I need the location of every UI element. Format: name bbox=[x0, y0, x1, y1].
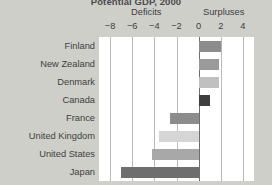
gridline bbox=[221, 37, 222, 181]
gridline bbox=[110, 37, 111, 181]
x-tick-label: 4 bbox=[231, 21, 255, 31]
bar bbox=[199, 59, 219, 70]
x-tick-label: −6 bbox=[120, 21, 144, 31]
gridline bbox=[132, 37, 133, 181]
bar bbox=[152, 149, 199, 160]
x-tick-label: 2 bbox=[209, 21, 233, 31]
category-label: Canada bbox=[0, 95, 95, 105]
category-label: France bbox=[0, 113, 95, 123]
category-label: Finland bbox=[0, 41, 95, 51]
category-label: United Kingdom bbox=[0, 131, 95, 141]
x-tick-label: −8 bbox=[98, 21, 122, 31]
bar bbox=[159, 131, 199, 142]
bar bbox=[199, 41, 221, 52]
bar-chart: Potential GDP, 2000 Deficits Surpluses −… bbox=[0, 0, 272, 185]
category-label: Japan bbox=[0, 167, 95, 177]
x-tick-label: −2 bbox=[165, 21, 189, 31]
bar bbox=[170, 113, 199, 124]
bar bbox=[199, 77, 219, 88]
category-label: Denmark bbox=[0, 77, 95, 87]
chart-title: Potential GDP, 2000 bbox=[0, 0, 272, 7]
x-tick-label: 0 bbox=[187, 21, 211, 31]
bar bbox=[199, 95, 210, 106]
bar bbox=[121, 167, 199, 178]
plot-area bbox=[99, 37, 254, 181]
deficits-header: Deficits bbox=[131, 7, 161, 17]
surpluses-header: Surpluses bbox=[203, 7, 244, 17]
gridline bbox=[243, 37, 244, 181]
category-label: United States bbox=[0, 149, 95, 159]
x-tick-label: −4 bbox=[142, 21, 166, 31]
category-label: New Zealand bbox=[0, 59, 95, 69]
